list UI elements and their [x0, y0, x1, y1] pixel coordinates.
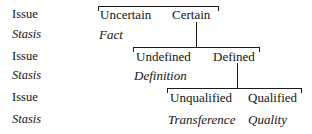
connector-certain-to-level-2 — [196, 22, 197, 47]
row-label-stasis-3: Stasis — [12, 113, 41, 126]
connector-defined-to-level-3 — [237, 63, 238, 88]
term-undefined: Undefined — [136, 50, 191, 63]
term-unqualified: Unqualified — [170, 91, 232, 104]
term-fact: Fact — [99, 28, 123, 41]
term-quality: Quality — [248, 113, 287, 126]
stasis-diagram: Issue Stasis Issue Stasis Issue Stasis U… — [0, 0, 312, 134]
row-label-issue-3: Issue — [12, 91, 38, 104]
row-label-issue-2: Issue — [12, 50, 38, 63]
term-uncertain: Uncertain — [100, 8, 151, 21]
term-defined: Defined — [213, 50, 255, 63]
term-transference: Transference — [168, 113, 235, 126]
term-certain: Certain — [172, 8, 210, 21]
row-label-stasis-2: Stasis — [12, 69, 41, 82]
term-qualified: Qualified — [248, 91, 297, 104]
row-label-stasis-1: Stasis — [12, 28, 41, 41]
term-definition: Definition — [134, 69, 187, 82]
row-label-issue-1: Issue — [12, 8, 38, 21]
